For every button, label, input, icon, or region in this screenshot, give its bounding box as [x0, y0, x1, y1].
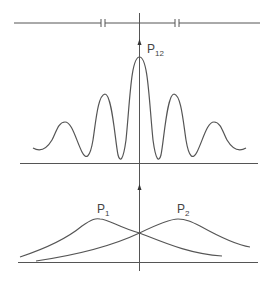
curve-p2 [36, 219, 250, 261]
label-p2: P2 [177, 202, 190, 218]
double-slit-diagram: P12 P1 P2 [0, 0, 272, 286]
curve-p1 [20, 219, 222, 257]
label-p12: P12 [147, 42, 164, 58]
barrier-with-slits [14, 19, 260, 27]
label-p1: P1 [97, 202, 110, 218]
arrow-up-icon [138, 184, 142, 190]
arrow-up-icon [138, 39, 142, 45]
